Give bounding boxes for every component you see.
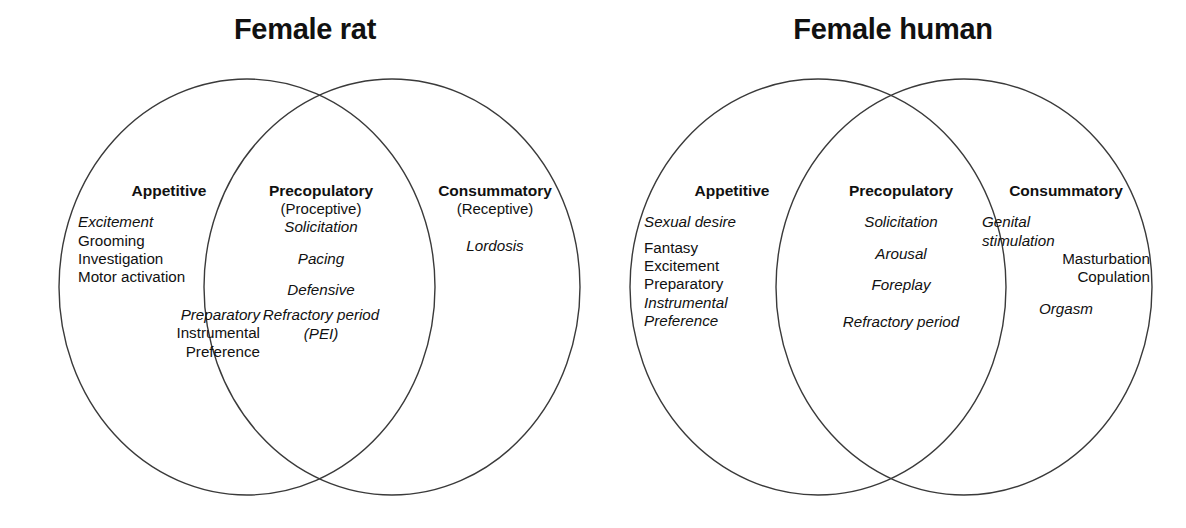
region-heading-precopulatory: Precopulatory	[806, 182, 996, 200]
term-item: Preparatory	[644, 275, 820, 293]
term-item: Fantasy	[644, 239, 820, 257]
term-item: Solicitation	[806, 213, 996, 231]
venn-diagram-female-rat: Female rat Appetitive Excitement Groomin…	[0, 0, 610, 528]
term-item: Excitement	[644, 257, 820, 275]
region-subheading-precopulatory: (Proceptive)	[228, 200, 414, 218]
term-group-1: Genital stimulation	[982, 213, 1150, 250]
region-subheading-consummatory: (Receptive)	[420, 200, 570, 218]
region-consummatory-rat: Consummatory (Receptive) Lordosis	[420, 182, 570, 256]
term-item: Orgasm	[982, 300, 1150, 318]
term-group-2: Masturbation Copulation	[982, 250, 1150, 287]
term-item: Defensive	[228, 281, 414, 299]
term-item: Refractory period	[228, 306, 414, 324]
term-item: Arousal	[806, 245, 996, 263]
term-item: Preference	[78, 343, 260, 361]
term-item: Solicitation	[228, 218, 414, 236]
region-heading-appetitive: Appetitive	[644, 182, 820, 200]
term-item: (PEI)	[228, 325, 414, 343]
term-item: Instrumental	[644, 294, 820, 312]
region-appetitive-human: Appetitive Sexual desire Fantasy Excitem…	[644, 182, 820, 331]
term-group-3: Orgasm	[982, 300, 1150, 318]
term-item: Refractory period	[806, 313, 996, 331]
venn-diagram-female-human: Female human Appetitive Sexual desire Fa…	[600, 0, 1186, 528]
region-precopulatory-human: Precopulatory Solicitation Arousal Forep…	[806, 182, 996, 332]
region-heading-consummatory: Consummatory	[420, 182, 570, 200]
term-item: Sexual desire	[644, 213, 820, 231]
term-item: Copulation	[982, 268, 1150, 286]
term-item: Genital	[982, 213, 1150, 231]
term-item: Masturbation	[982, 250, 1150, 268]
region-precopulatory-rat: Precopulatory (Proceptive) Solicitation …	[228, 182, 414, 343]
term-item: Preference	[644, 312, 820, 330]
term-item: Pacing	[228, 250, 414, 268]
term-group-2: Fantasy Excitement Preparatory Instrumen…	[644, 239, 820, 331]
term-item: Foreplay	[806, 276, 996, 294]
term-item: stimulation	[982, 232, 1150, 250]
region-heading-precopulatory: Precopulatory	[228, 182, 414, 200]
region-consummatory-human: Consummatory Genital stimulation Masturb…	[982, 182, 1150, 318]
term-group-1: Sexual desire	[644, 213, 820, 231]
term-item: Lordosis	[420, 237, 570, 255]
region-heading-consummatory: Consummatory	[982, 182, 1150, 200]
